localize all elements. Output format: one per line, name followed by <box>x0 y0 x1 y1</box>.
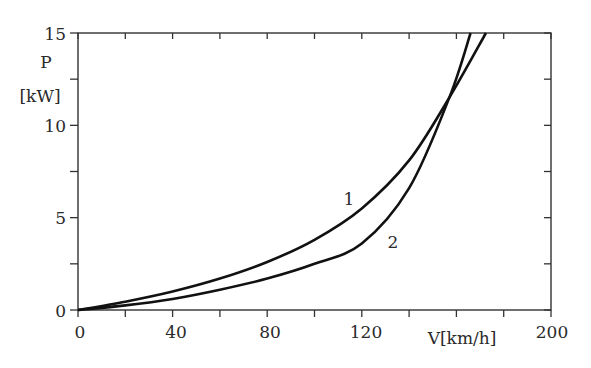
curve-1 <box>78 33 486 310</box>
x-tick-120: 120 <box>350 322 382 342</box>
y-axis-title-unit: [kW] <box>19 86 60 106</box>
axis-ticks <box>70 33 551 317</box>
curve-1-label: 1 <box>344 189 355 209</box>
plot-frame <box>78 33 551 310</box>
x-axis-title: V[km/h] <box>427 328 497 348</box>
curve-2 <box>78 33 471 310</box>
y-tick-15: 15 <box>44 24 66 44</box>
x-tick-200: 200 <box>536 322 568 342</box>
y-tick-0: 0 <box>55 301 66 321</box>
x-tick-0: 0 <box>75 322 86 342</box>
x-tick-80: 80 <box>259 322 281 342</box>
chart-canvas: 15 10 5 0 P [kW] 0 40 80 120 200 V[km/h]… <box>0 0 591 368</box>
y-tick-10: 10 <box>44 116 66 136</box>
y-tick-5: 5 <box>55 208 66 228</box>
curve-2-label: 2 <box>388 232 399 252</box>
x-tick-40: 40 <box>165 322 187 342</box>
y-axis-title-symbol: P <box>40 52 51 72</box>
